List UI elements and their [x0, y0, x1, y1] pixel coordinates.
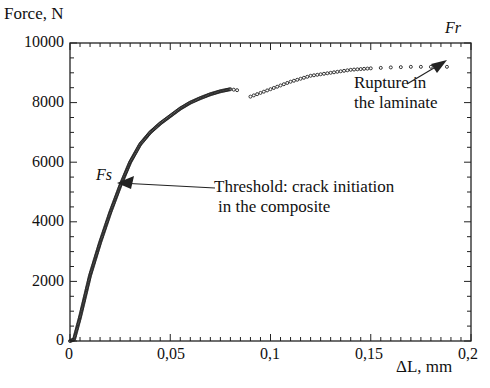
threshold-annotation-line1: Threshold: crack initiation: [214, 177, 394, 197]
rupture-arrowhead: [431, 60, 447, 73]
rupture-annotation-line1: Rupture in: [354, 73, 426, 93]
threshold-arrow: [120, 183, 215, 188]
rupture-annotation-line2: the laminate: [354, 93, 438, 113]
fr-label: Fr: [445, 19, 461, 37]
threshold-annotation-line2: in the composite: [218, 197, 330, 217]
fs-label: Fs: [96, 166, 112, 184]
